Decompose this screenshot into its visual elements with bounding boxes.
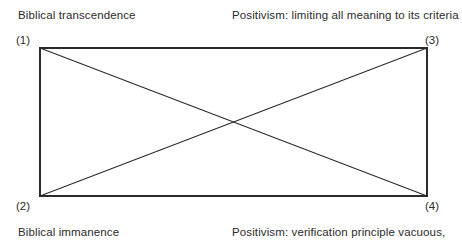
diagram-shapes (0, 0, 462, 241)
caption-bottom-right: Positivism: verification principle vacuo… (232, 225, 445, 239)
diagram-canvas: Biblical transcendence Positivism: limit… (0, 0, 462, 241)
corner-label-2: (2) (16, 199, 30, 213)
corner-label-4: (4) (425, 199, 439, 213)
caption-bottom-left: Biblical immanence (18, 225, 119, 239)
